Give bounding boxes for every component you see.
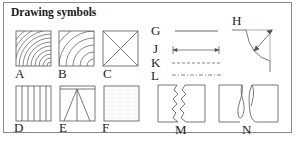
label-j: J xyxy=(153,42,158,55)
zigzag-break-icon xyxy=(158,85,205,122)
label-d: D xyxy=(14,121,23,134)
label-l: L xyxy=(151,69,159,82)
vertical-grain-icon xyxy=(16,86,51,121)
label-g: G xyxy=(151,24,160,37)
curved-break-icon xyxy=(219,85,278,122)
label-f: F xyxy=(102,121,109,134)
radius-profile-icon xyxy=(232,30,273,72)
dimension-line-icon xyxy=(173,46,219,54)
label-e: E xyxy=(59,121,67,134)
label-c: C xyxy=(103,67,112,80)
crossed-box-icon xyxy=(103,31,138,66)
triangle-box-icon xyxy=(60,86,95,121)
label-a: A xyxy=(15,67,24,80)
label-n: N xyxy=(242,123,251,136)
label-m: M xyxy=(175,123,187,136)
label-h: H xyxy=(232,14,241,27)
stippled-box-icon xyxy=(104,86,139,121)
label-b: B xyxy=(58,67,67,80)
symbols-artwork xyxy=(0,0,299,143)
